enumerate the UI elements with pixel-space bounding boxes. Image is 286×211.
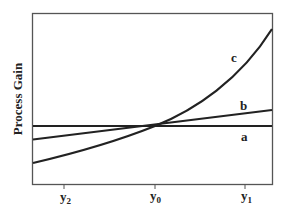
plot-frame — [33, 14, 273, 185]
x-tick-label-y2: y2 — [60, 189, 72, 206]
process-gain-chart: Process Gain y2 y0 y1 a b c — [0, 0, 286, 211]
y-axis-label: Process Gain — [10, 62, 25, 135]
series-a-label: a — [241, 129, 248, 144]
series-b-label: b — [240, 98, 247, 113]
x-tick-label-y1: y1 — [241, 188, 253, 205]
x-tick-label-y0: y0 — [150, 188, 162, 205]
series-b-line — [33, 110, 272, 140]
series-c-label: c — [231, 50, 237, 65]
